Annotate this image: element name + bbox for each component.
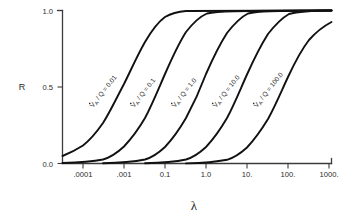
x-axis-title: λ xyxy=(191,198,198,213)
x-tick-labels: .0001 .001 0.1 1.0 10. 100. 1000. xyxy=(73,170,338,179)
x-tick-label-100dot: 100. xyxy=(281,170,296,179)
y-tick-label-1.0: 1.0 xyxy=(42,7,53,16)
curve-labels-group: VA / Q = 0.01 VA / Q = 0.1 VA / Q = 1.0 … xyxy=(88,70,285,109)
chart-figure: 1.0 0.5 0.0 .0001 .001 0.1 1.0 10. 100. … xyxy=(0,0,347,223)
curve-va-q-10.0 xyxy=(145,11,332,164)
y-tick-labels: 1.0 0.5 0.0 xyxy=(42,7,53,169)
axes-group xyxy=(58,11,332,164)
curve-label-0.1-value: 0.1 xyxy=(145,76,156,88)
curve-va-q-1.0 xyxy=(103,11,332,164)
curve-va-q-0.01 xyxy=(63,11,332,157)
svg-text:VA / Q = 0.1: VA / Q = 0.1 xyxy=(129,76,158,109)
y-tick-marks xyxy=(58,11,63,164)
curve-label-100.0-value: 100.0 xyxy=(268,71,284,89)
curve-label-10.0-value: 10.0 xyxy=(227,73,241,88)
curve-label-10.0: VA / Q = 10.0 xyxy=(211,73,242,109)
y-tick-label-0.0: 0.0 xyxy=(42,160,53,169)
x-tick-label-01: 0.1 xyxy=(160,170,171,179)
x-tick-label-001: .001 xyxy=(117,170,132,179)
svg-text:VA / Q = 1.0: VA / Q = 1.0 xyxy=(170,76,199,109)
svg-text:VA / Q = 100.0: VA / Q = 100.0 xyxy=(252,71,285,110)
x-tick-label-1000dot: 1000. xyxy=(319,170,338,179)
curve-label-0.01-value: 0.01 xyxy=(104,73,118,88)
curve-label-1.0: VA / Q = 1.0 xyxy=(170,76,199,109)
curve-va-q-100.0 xyxy=(186,22,332,163)
y-tick-label-0.5: 0.5 xyxy=(42,83,53,92)
curve-label-100.0: VA / Q = 100.0 xyxy=(252,70,285,109)
x-tick-label-10dot: 10. xyxy=(242,170,253,179)
x-tick-label-0001: .0001 xyxy=(73,170,92,179)
x-tick-marks xyxy=(83,164,329,169)
x-tick-label-10: 1.0 xyxy=(201,170,212,179)
svg-text:VA / Q = 10.0: VA / Q = 10.0 xyxy=(211,73,242,109)
y-axis-title: R xyxy=(19,82,26,92)
chart-svg: 1.0 0.5 0.0 .0001 .001 0.1 1.0 10. 100. … xyxy=(0,0,347,223)
curve-label-1.0-value: 1.0 xyxy=(186,76,197,88)
curve-label-0.1: VA / Q = 0.1 xyxy=(129,76,158,109)
